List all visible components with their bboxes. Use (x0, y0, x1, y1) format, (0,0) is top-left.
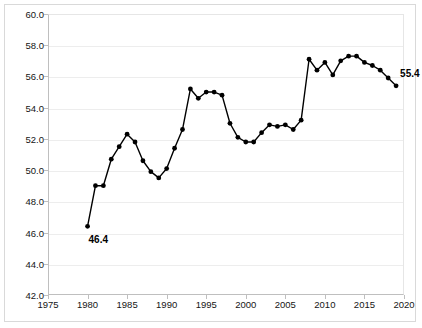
y-axis-tick-label: 50.0 (6, 165, 44, 176)
gridline-horizontal (49, 77, 403, 78)
x-axis-tick-label: 2005 (260, 299, 310, 310)
gridline-horizontal (49, 109, 403, 110)
x-axis-tick-label: 2020 (379, 299, 422, 310)
y-axis-tick-label: 48.0 (6, 196, 44, 207)
x-axis-tick-mark (48, 295, 49, 299)
gridline-horizontal (49, 171, 403, 172)
x-axis-tick-mark (88, 295, 89, 299)
plot-area (48, 14, 404, 295)
x-axis-tick-mark (167, 295, 168, 299)
x-axis-tick-label: 2000 (221, 299, 271, 310)
x-axis-tick-label: 1995 (181, 299, 231, 310)
y-axis-tick-label: 54.0 (6, 102, 44, 113)
x-axis-tick-label: 1985 (102, 299, 152, 310)
x-axis-tick-label: 1975 (23, 299, 73, 310)
x-axis-tick-mark (404, 295, 405, 299)
y-axis-tick-label: 42.0 (6, 290, 44, 301)
y-axis-tick-label: 44.0 (6, 258, 44, 269)
x-axis-tick-label: 2010 (300, 299, 350, 310)
y-axis-tick-label: 52.0 (6, 133, 44, 144)
x-axis-tick-mark (246, 295, 247, 299)
data-label-end: 55.4 (400, 68, 419, 79)
gridline-horizontal (49, 265, 403, 266)
x-axis-tick-mark (127, 295, 128, 299)
data-label-start: 46.4 (89, 234, 108, 245)
gridline-horizontal (49, 46, 403, 47)
gridline-horizontal (49, 202, 403, 203)
x-axis-tick-mark (285, 295, 286, 299)
x-axis-tick-label: 1990 (142, 299, 192, 310)
y-axis-tick-label: 46.0 (6, 227, 44, 238)
x-axis-tick-label: 2015 (339, 299, 389, 310)
chart-figure: 42.044.046.048.050.052.054.056.058.060.0… (0, 0, 422, 328)
y-axis-tick-mark (44, 295, 48, 296)
y-axis-tick-label: 58.0 (6, 40, 44, 51)
x-axis-tick-mark (325, 295, 326, 299)
x-axis-tick-mark (364, 295, 365, 299)
gridline-horizontal (49, 140, 403, 141)
x-axis-tick-label: 1980 (63, 299, 113, 310)
y-axis-tick-label: 56.0 (6, 71, 44, 82)
x-axis-tick-mark (206, 295, 207, 299)
y-axis-tick-label: 60.0 (6, 9, 44, 20)
